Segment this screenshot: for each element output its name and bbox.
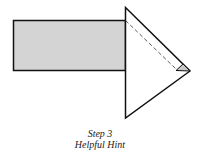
- arrow-shaft-rectangle: [14, 21, 126, 71]
- caption-hint: Helpful Hint: [0, 140, 200, 150]
- arrow-head-triangle: [126, 8, 191, 119]
- caption-step: Step 3: [0, 129, 200, 139]
